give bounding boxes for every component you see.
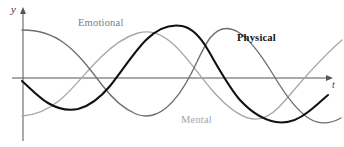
physical-curve xyxy=(22,26,328,123)
y-axis-arrowhead xyxy=(20,7,26,14)
chart-canvas xyxy=(0,0,344,147)
t-axis-label: t xyxy=(332,80,335,90)
y-axis-label: y xyxy=(11,4,16,15)
physical-curve-label: Physical xyxy=(237,33,276,44)
emotional-curve-label: Emotional xyxy=(78,18,124,29)
axes-group xyxy=(12,7,333,141)
biorhythm-chart: y t Emotional Physical Mental xyxy=(0,0,344,147)
mental-curve-label: Mental xyxy=(181,115,212,126)
mental-curve xyxy=(22,32,342,119)
